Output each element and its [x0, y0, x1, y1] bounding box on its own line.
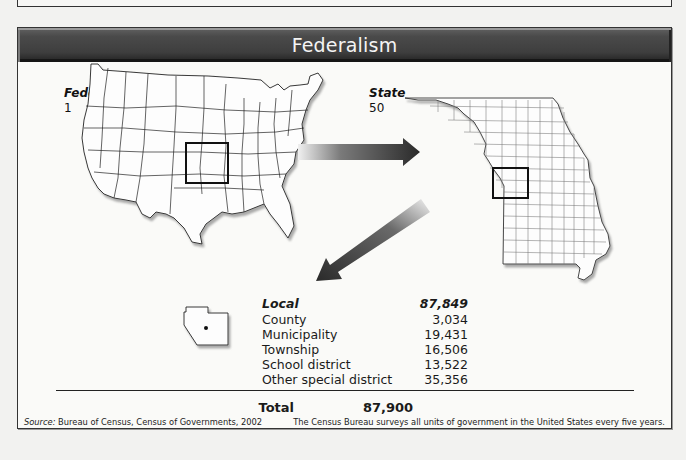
row-value: 13,522: [424, 357, 468, 372]
row-value: 16,506: [424, 342, 468, 357]
table-row: School district 13,522: [262, 357, 468, 372]
us-map-icon: [82, 64, 323, 244]
local-government-table: Local 87,849 County 3,034 Municipality 1…: [262, 295, 468, 387]
local-label: Local: [262, 295, 299, 312]
source-text: Bureau of Census, Census of Governments,…: [55, 417, 262, 427]
table-row: County 3,034: [262, 312, 468, 327]
row-label: County: [262, 312, 307, 327]
table-row: Township 16,506: [262, 342, 468, 357]
total-value: 87,900: [363, 400, 413, 415]
row-value: 19,431: [424, 327, 468, 342]
arrow-down-left-icon: [316, 199, 430, 281]
arrow-right-icon: [298, 138, 420, 166]
table-row: Other special district 35,356: [262, 372, 468, 387]
row-label: Municipality: [262, 327, 337, 342]
row-label: Township: [262, 342, 319, 357]
row-label: School district: [262, 357, 351, 372]
census-note: The Census Bureau surveys all units of g…: [293, 417, 665, 427]
county-shape-icon: [184, 307, 228, 345]
table-row: Municipality 19,431: [262, 327, 468, 342]
divider: [56, 390, 634, 391]
row-value: 3,034: [432, 312, 468, 327]
source-prefix: Source:: [24, 417, 55, 427]
source-note: Source: Bureau of Census, Census of Gove…: [24, 417, 262, 427]
missouri-map-icon: [405, 98, 610, 280]
local-header-row: Local 87,849: [262, 295, 468, 312]
row-value: 35,356: [424, 372, 468, 387]
total-label: Total: [218, 400, 294, 415]
top-frame: [17, 0, 672, 7]
local-count: 87,849: [420, 295, 468, 312]
row-label: Other special district: [262, 372, 392, 387]
federalism-figure: Federalism Federal 1 State 50: [17, 27, 672, 429]
